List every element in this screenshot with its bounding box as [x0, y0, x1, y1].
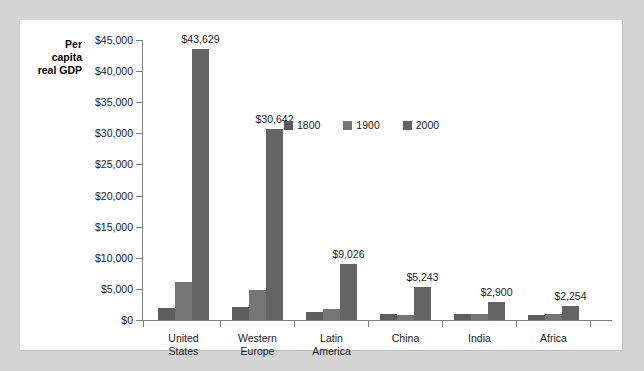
y-axis-tick: [136, 258, 142, 259]
bar-india-1900[interactable]: [471, 314, 488, 320]
y-axis-tick: [136, 164, 142, 165]
page-root: Per capita real GDP $0$5,000$10,000$15,0…: [0, 0, 644, 371]
x-axis-tick: [368, 321, 369, 327]
bar-latin-america-1800[interactable]: [306, 312, 323, 320]
legend-swatch-icon: [284, 121, 293, 130]
y-axis-tick-label: $35,000: [95, 96, 133, 108]
bar-latin-america-1900[interactable]: [323, 309, 340, 320]
legend-item-1800[interactable]: 1800: [284, 119, 320, 131]
x-axis-tick: [294, 321, 295, 327]
x-axis-tick: [590, 321, 591, 327]
x-axis-category-label-line: States: [168, 345, 198, 358]
y-axis-line: [142, 40, 143, 320]
y-axis-title-line-3: real GDP: [30, 64, 82, 77]
y-axis-tick-label: $45,000: [95, 34, 133, 46]
x-axis-category-label-line: China: [392, 332, 419, 345]
x-axis-category-label: India: [468, 332, 491, 345]
bar-china-2000[interactable]: [414, 287, 431, 320]
bar-china-1800[interactable]: [380, 314, 397, 320]
bar-africa-2000[interactable]: [562, 306, 579, 320]
y-axis-tick-label: $10,000: [95, 252, 133, 264]
x-axis-category-label-line: India: [468, 332, 491, 345]
x-axis-tick: [220, 321, 221, 327]
bar-value-label: $2,900: [480, 286, 512, 298]
bar-united-states-1900[interactable]: [175, 282, 192, 320]
legend-label: 1800: [297, 119, 320, 131]
bar-africa-1800[interactable]: [528, 315, 545, 320]
y-axis-title: Per capita real GDP: [30, 38, 82, 77]
bar-india-2000[interactable]: [488, 302, 505, 320]
legend-swatch-icon: [343, 121, 352, 130]
bar-value-label: $9,026: [332, 248, 364, 260]
bar-group-bars: [306, 40, 357, 320]
x-axis-category-label-line: Latin: [312, 332, 351, 345]
y-axis-tick-label: $20,000: [95, 190, 133, 202]
x-axis-category-label: UnitedStates: [168, 332, 198, 358]
y-axis-tick: [136, 71, 142, 72]
x-axis-category-label-line: Africa: [540, 332, 567, 345]
y-axis-title-line-2: capita: [30, 51, 82, 64]
x-axis-tick-origin: [143, 321, 144, 327]
x-axis-category-label: China: [392, 332, 419, 345]
y-axis-tick: [136, 40, 142, 41]
x-axis-category-label-line: Western: [238, 332, 277, 345]
y-axis-tick-label: $25,000: [95, 158, 133, 170]
bar-group-bars: [528, 40, 579, 320]
bar-western-europe-2000[interactable]: [266, 129, 283, 320]
bar-western-europe-1900[interactable]: [249, 290, 266, 320]
x-axis-line: [136, 320, 612, 321]
bar-western-europe-1800[interactable]: [232, 307, 249, 320]
x-axis-tick: [442, 321, 443, 327]
legend-label: 1900: [356, 119, 379, 131]
bar-united-states-2000[interactable]: [192, 49, 209, 320]
legend-item-2000[interactable]: 2000: [403, 119, 439, 131]
legend-item-1900[interactable]: 1900: [343, 119, 379, 131]
legend-swatch-icon: [403, 121, 412, 130]
legend-label: 2000: [416, 119, 439, 131]
legend: 180019002000: [284, 119, 439, 131]
bar-group-bars: [454, 40, 505, 320]
bar-united-states-1800[interactable]: [158, 308, 175, 320]
bar-group-bars: [232, 40, 283, 320]
bar-value-label: $2,254: [554, 290, 586, 302]
bar-china-1900[interactable]: [397, 315, 414, 320]
x-axis-category-label: LatinAmerica: [312, 332, 351, 358]
y-axis-tick: [136, 102, 142, 103]
y-axis-tick-label: $30,000: [95, 127, 133, 139]
plot-area: $0$5,000$10,000$15,000$20,000$25,000$30,…: [142, 40, 612, 320]
x-axis-category-label-line: United: [168, 332, 198, 345]
chart-panel: Per capita real GDP $0$5,000$10,000$15,0…: [20, 20, 622, 350]
bar-value-label: $43,629: [182, 33, 220, 45]
x-axis-tick: [516, 321, 517, 327]
x-axis-category-label-line: Europe: [238, 345, 277, 358]
y-axis-title-line-1: Per: [30, 38, 82, 51]
x-axis-category-label: Africa: [540, 332, 567, 345]
y-axis-tick-label: $5,000: [101, 283, 133, 295]
y-axis-tick: [136, 196, 142, 197]
x-axis-category-label: WesternEurope: [238, 332, 277, 358]
y-axis-tick: [136, 227, 142, 228]
y-axis-tick: [136, 289, 142, 290]
bar-value-label: $5,243: [406, 271, 438, 283]
y-axis-tick-label: $0: [121, 314, 133, 326]
bar-india-1800[interactable]: [454, 314, 471, 320]
y-axis-tick: [136, 320, 142, 321]
bar-group-bars: [158, 40, 209, 320]
y-axis-tick: [136, 133, 142, 134]
y-axis-tick-label: $40,000: [95, 65, 133, 77]
y-axis-tick-label: $15,000: [95, 221, 133, 233]
bar-africa-1900[interactable]: [545, 314, 562, 320]
x-axis-category-label-line: America: [312, 345, 351, 358]
bar-latin-america-2000[interactable]: [340, 264, 357, 320]
